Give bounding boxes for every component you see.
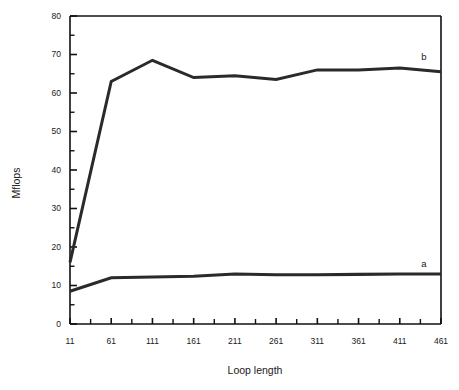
x-axis-ticks (70, 318, 441, 324)
y-axis-ticks (70, 16, 77, 324)
y-tick-label: 80 (52, 11, 62, 21)
y-tick-label: 70 (52, 49, 62, 59)
x-axis-tick-labels: 1161111161211261311361411461 (66, 336, 449, 346)
series-label-a: a (421, 258, 427, 269)
y-tick-label: 40 (52, 165, 62, 175)
y-axis-title: Mflops (10, 168, 22, 199)
y-tick-label: 20 (52, 242, 62, 252)
x-tick-label: 261 (269, 336, 283, 346)
x-tick-label: 11 (66, 336, 75, 346)
series-line-b (70, 60, 441, 262)
x-tick-label: 461 (434, 336, 448, 346)
x-tick-label: 111 (146, 336, 159, 346)
chart-figure: 01020304050607080 1161111161211261311361… (0, 0, 459, 390)
x-tick-label: 211 (228, 336, 242, 346)
y-tick-label: 30 (52, 203, 62, 213)
x-tick-label: 61 (106, 336, 116, 346)
x-tick-label: 311 (311, 336, 325, 346)
y-tick-label: 10 (52, 280, 62, 290)
line-chart: 01020304050607080 1161111161211261311361… (0, 0, 459, 390)
x-axis-title: Loop length (228, 364, 283, 376)
series-label-b: b (421, 51, 426, 62)
x-tick-label: 361 (351, 336, 365, 346)
y-tick-label: 60 (52, 88, 62, 98)
series-line-a (70, 274, 441, 291)
x-tick-label: 411 (393, 336, 407, 346)
y-tick-label: 50 (52, 126, 62, 136)
y-tick-label: 0 (56, 319, 61, 329)
x-tick-label: 161 (187, 336, 201, 346)
y-axis-tick-labels: 01020304050607080 (52, 11, 62, 329)
